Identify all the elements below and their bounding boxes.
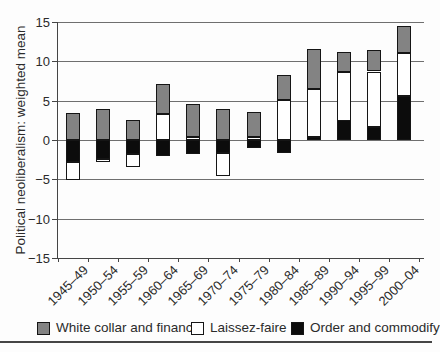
bar-segment (96, 109, 110, 140)
bar-segment (126, 154, 140, 167)
bar-segment (277, 75, 291, 100)
bar-segment (397, 96, 411, 140)
x-tick-mark (359, 258, 360, 262)
y-tick-mark (52, 101, 57, 102)
bar-segment (337, 72, 351, 121)
bar-segment (186, 140, 200, 154)
bar-segment (96, 140, 110, 159)
y-tick-label: 10 (10, 55, 50, 68)
x-tick-mark (329, 258, 330, 262)
y-tick-label: 15 (10, 16, 50, 29)
y-tick-mark (52, 258, 57, 259)
order-commodify-swatch-icon (291, 322, 304, 335)
legend-item-order-commodify: Order and commodify (291, 321, 440, 335)
bar-segment (156, 114, 170, 140)
bar-segment (247, 140, 261, 148)
x-tick-mark (88, 258, 89, 262)
y-axis-line (57, 22, 58, 258)
bar-segment (367, 127, 381, 140)
x-tick-mark (239, 258, 240, 262)
bar-segment (156, 84, 170, 114)
y-tick-label: 0 (10, 134, 50, 147)
x-tick-mark (299, 258, 300, 262)
bar-segment (66, 113, 80, 140)
white-collar-swatch-icon (37, 322, 50, 335)
plot-area (57, 22, 424, 258)
gridline-y-15 (57, 258, 424, 259)
bar-segment (66, 140, 80, 162)
x-tick-mark (58, 258, 59, 262)
y-tick-label: 5 (10, 95, 50, 108)
legend-label: Laissez-faire (210, 321, 287, 335)
gridline-y-10 (57, 219, 424, 220)
x-tick-mark (419, 258, 420, 262)
x-tick-mark (269, 258, 270, 262)
x-tick-mark (389, 258, 390, 262)
bar-segment (307, 49, 321, 89)
laissez-faire-swatch-icon (191, 322, 204, 335)
bar-segment (367, 50, 381, 71)
bar-segment (337, 52, 351, 72)
bar-segment (277, 140, 291, 153)
bar-segment (186, 137, 200, 140)
legend-label: White collar and finance (56, 321, 200, 335)
bar-segment (367, 72, 381, 127)
gridline-y0 (57, 140, 424, 141)
x-tick-mark (208, 258, 209, 262)
legend-item-laissez-faire: Laissez-faire (191, 321, 287, 335)
y-tick-mark (52, 179, 57, 180)
gridline-y-5 (57, 179, 424, 180)
y-tick-mark (52, 219, 57, 220)
y-tick-label: −5 (10, 173, 50, 186)
x-tick-mark (148, 258, 149, 262)
bar-segment (397, 26, 411, 53)
y-tick-label: −10 (10, 213, 50, 226)
bar-segment (307, 137, 321, 140)
bar-segment (66, 162, 80, 180)
bar-segment (277, 100, 291, 140)
gridline-y15 (57, 22, 424, 23)
x-tick-mark (178, 258, 179, 262)
bar-segment (126, 120, 140, 140)
bar-segment (247, 112, 261, 137)
y-tick-mark (52, 22, 57, 23)
bar-segment (247, 137, 261, 140)
bar-segment (307, 89, 321, 137)
bar-segment (337, 120, 351, 140)
bar-segment (216, 109, 230, 140)
bar-segment (397, 53, 411, 96)
y-tick-label: −15 (10, 252, 50, 265)
x-tick-mark (118, 258, 119, 262)
bar-segment (216, 153, 230, 176)
legend-item-white-collar: White collar and finance (37, 321, 200, 335)
bar-segment (216, 140, 230, 153)
bar-segment (186, 104, 200, 137)
bar-segment (126, 140, 140, 154)
y-tick-mark (52, 61, 57, 62)
y-tick-mark (52, 140, 57, 141)
legend-label: Order and commodify (310, 321, 440, 335)
bar-segment (96, 159, 110, 162)
bottom-rule-divider (0, 341, 432, 343)
bar-segment (156, 140, 170, 156)
